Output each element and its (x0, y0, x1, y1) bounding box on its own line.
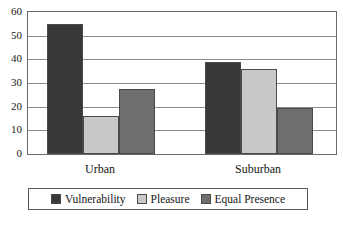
y-axis: 0102030405060 (0, 6, 24, 160)
bar (47, 24, 83, 154)
y-tick-label: 30 (11, 77, 22, 88)
legend-swatch-icon (137, 194, 147, 204)
category-label: Suburban (235, 160, 281, 178)
bar (241, 69, 277, 154)
bar (205, 62, 241, 154)
legend-entry: Vulnerability (51, 193, 126, 205)
figure-caption (0, 214, 343, 229)
bar-group (28, 12, 182, 154)
legend-label: Vulnerability (65, 193, 126, 205)
y-tick-label: 60 (11, 6, 22, 17)
legend-label: Pleasure (151, 193, 190, 205)
y-tick-label: 40 (11, 53, 22, 64)
x-axis-category-labels: UrbanSuburban (27, 160, 337, 182)
legend-swatch-icon (51, 194, 61, 204)
chart-plot-region: 0102030405060 UrbanSuburban (0, 0, 343, 165)
y-tick-label: 20 (11, 100, 22, 111)
figure-bar-chart: 0102030405060 UrbanSuburban Vulnerabilit… (0, 0, 343, 229)
chart-legend: VulnerabilityPleasureEqual Presence (28, 188, 308, 210)
bar-group (182, 12, 336, 154)
legend-swatch-icon (201, 194, 211, 204)
category-label: Urban (85, 160, 115, 178)
bars-layer (28, 12, 336, 154)
bar (83, 116, 119, 154)
bar (119, 89, 155, 154)
legend-label: Equal Presence (215, 193, 286, 205)
y-tick-label: 50 (11, 29, 22, 40)
y-tick-label: 10 (11, 124, 22, 135)
legend-entry: Pleasure (137, 193, 190, 205)
plot-frame (27, 11, 337, 155)
legend-entry: Equal Presence (201, 193, 286, 205)
bar (277, 108, 313, 154)
y-tick-label: 0 (17, 148, 23, 159)
